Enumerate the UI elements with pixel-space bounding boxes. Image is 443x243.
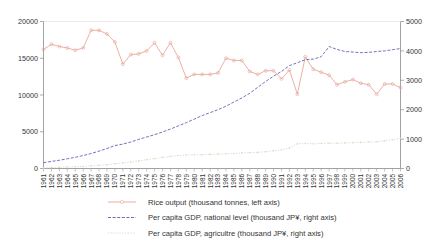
- x-tick-label: 1980: [191, 174, 198, 189]
- data-point: [130, 161, 132, 163]
- data-point: [162, 157, 164, 159]
- data-point: [289, 147, 291, 149]
- data-point: [233, 153, 235, 155]
- x-tick-label: 2006: [397, 174, 404, 189]
- data-point: [241, 152, 243, 154]
- x-tick-label: 1975: [151, 174, 158, 189]
- data-point: [217, 153, 219, 155]
- data-point: [114, 163, 116, 165]
- x-tick-label: 1977: [167, 174, 174, 189]
- series-line-2: [44, 46, 401, 162]
- x-tick-label: 1962: [48, 174, 55, 189]
- data-point: [98, 164, 100, 166]
- data-point: [312, 143, 314, 145]
- chart-svg: 05000100001500020000 0100020003000400050…: [0, 0, 443, 243]
- x-tick-label: 1973: [135, 174, 142, 189]
- x-tick-label: 1981: [199, 174, 206, 189]
- legend-label-1: Rice output (thousand tonnes, left axis): [148, 198, 280, 207]
- x-tick-label: 1987: [246, 174, 253, 189]
- x-tick-label: 1976: [159, 174, 166, 189]
- x-axis: 1961196219631964196519661967196819691970…: [40, 169, 404, 189]
- x-tick-label: 1999: [341, 174, 348, 189]
- x-tick-label: 1967: [88, 174, 95, 189]
- x-tick-label: 1979: [183, 174, 190, 189]
- x-tick-label: 2001: [357, 174, 364, 189]
- x-tick-label: 1961: [40, 174, 47, 189]
- data-point: [106, 164, 108, 166]
- data-point: [376, 141, 378, 143]
- x-tick-label: 1994: [302, 174, 309, 189]
- data-point: [51, 167, 53, 169]
- x-tick-label: 1974: [143, 174, 150, 189]
- chart-container: 05000100001500020000 0100020003000400050…: [0, 0, 443, 243]
- left-tick-label: 5000: [22, 127, 38, 136]
- data-point: [384, 140, 386, 142]
- x-tick-label: 1997: [326, 174, 333, 189]
- right-tick-label: 5000: [406, 17, 422, 26]
- right-tick-label: 0: [406, 164, 410, 173]
- x-tick-label: 1972: [127, 174, 134, 189]
- x-tick-label: 1995: [310, 174, 317, 189]
- x-tick-label: 1978: [175, 174, 182, 189]
- data-point: [138, 160, 140, 162]
- data-point: [257, 152, 259, 154]
- x-tick-label: 2000: [349, 174, 356, 189]
- x-tick-label: 1991: [278, 174, 285, 189]
- x-tick-label: 2004: [381, 174, 388, 189]
- series-2: [44, 46, 401, 162]
- data-point: [43, 167, 45, 169]
- data-point: [209, 154, 211, 156]
- data-point: [392, 139, 394, 141]
- x-tick-label: 1998: [333, 174, 340, 189]
- chart-legend: Rice output (thousand tonnes, left axis)…: [108, 198, 337, 238]
- legend-label-2: Per capita GDP, national level (thousand…: [148, 213, 337, 222]
- x-tick-label: 1982: [207, 174, 214, 189]
- x-tick-label: 1970: [111, 174, 118, 189]
- x-tick-label: 1985: [230, 174, 237, 189]
- x-tick-label: 1992: [286, 174, 293, 189]
- data-point: [178, 155, 180, 157]
- data-point: [154, 158, 156, 160]
- data-point: [328, 142, 330, 144]
- data-point: [273, 150, 275, 152]
- data-point: [368, 141, 370, 143]
- data-point: [360, 142, 362, 144]
- x-tick-label: 1988: [254, 174, 261, 189]
- data-point: [193, 154, 195, 156]
- series-layer: [42, 29, 402, 169]
- data-point: [82, 166, 84, 168]
- right-tick-label: 1000: [406, 135, 422, 144]
- data-point: [265, 151, 267, 153]
- data-point: [74, 166, 76, 168]
- series-3: [43, 137, 402, 168]
- data-point: [400, 137, 402, 139]
- x-tick-label: 1986: [238, 174, 245, 189]
- x-tick-label: 1966: [80, 174, 87, 189]
- x-tick-label: 1969: [103, 174, 110, 189]
- data-point: [67, 166, 69, 168]
- data-point: [352, 142, 354, 144]
- series-1: [42, 29, 402, 96]
- left-tick-label: 15000: [18, 54, 38, 63]
- left-tick-label: 10000: [18, 91, 38, 100]
- x-tick-label: 1971: [119, 174, 126, 189]
- right-tick-label: 2000: [406, 105, 422, 114]
- series-line-1: [44, 30, 401, 94]
- x-tick-label: 1964: [64, 174, 71, 189]
- left-axis: 05000100001500020000: [18, 17, 44, 173]
- x-tick-label: 1989: [262, 174, 269, 189]
- x-tick-label: 1983: [214, 174, 221, 189]
- x-tick-label: 1996: [318, 174, 325, 189]
- right-tick-label: 3000: [406, 76, 422, 85]
- x-tick-label: 1965: [72, 174, 79, 189]
- x-tick-label: 2002: [365, 174, 372, 189]
- data-point: [305, 143, 307, 145]
- legend-marker-1: [120, 200, 123, 203]
- data-point: [281, 149, 283, 151]
- data-point: [225, 153, 227, 155]
- x-tick-label: 1968: [95, 174, 102, 189]
- x-tick-label: 2003: [373, 174, 380, 189]
- left-tick-label: 0: [34, 164, 38, 173]
- data-point: [344, 142, 346, 144]
- data-point: [297, 143, 299, 145]
